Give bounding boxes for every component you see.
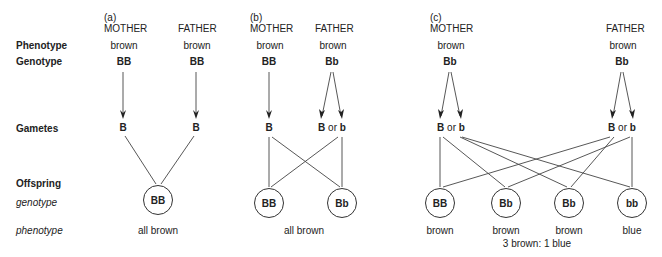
row-label-phenotype: Phenotype bbox=[16, 40, 67, 52]
panel-b-mother-genotype: BB bbox=[262, 56, 276, 68]
row-label-offspring: Offspring bbox=[16, 178, 61, 190]
gamete-allele: B bbox=[437, 122, 444, 133]
panel-a-offspring-1: BB bbox=[143, 185, 173, 215]
gamete-allele: b bbox=[340, 122, 346, 133]
gamete-allele: b bbox=[630, 122, 636, 133]
genetics-inheritance-diagram: Phenotype Genotype Gametes Offspring gen… bbox=[0, 0, 662, 257]
panel-c-mother-genotype: Bb bbox=[443, 56, 456, 68]
row-label-offspring-genotype: genotype bbox=[16, 197, 57, 209]
panel-b-mother-phenotype: brown bbox=[256, 40, 283, 52]
panel-c-offspring-3-phenotype: brown bbox=[555, 225, 582, 237]
panel-c-offspring-2-phenotype: brown bbox=[492, 225, 519, 237]
panel-a-phenotype-summary: all brown bbox=[138, 225, 178, 237]
gamete-allele: b bbox=[459, 122, 465, 133]
row-label-gametes: Gametes bbox=[16, 123, 58, 135]
panel-c-ratio: 3 brown: 1 blue bbox=[503, 238, 571, 250]
panel-b-father-label: FATHER bbox=[315, 23, 354, 35]
panel-c-mother-phenotype: brown bbox=[437, 40, 464, 52]
panel-b-father-genotype: Bb bbox=[325, 56, 338, 68]
panel-c-mother-label: MOTHER bbox=[430, 23, 473, 35]
panel-a-mother-label: MOTHER bbox=[104, 23, 147, 35]
gamete-allele: B bbox=[318, 122, 325, 133]
panel-a-mother-genotype: BB bbox=[117, 56, 131, 68]
panel-b-mother-gamete: B bbox=[265, 122, 272, 134]
panel-b-father-phenotype: brown bbox=[319, 40, 346, 52]
panel-a-father-label: FATHER bbox=[178, 23, 217, 35]
panel-b-mother-label: MOTHER bbox=[250, 23, 293, 35]
panel-c-offspring-4-phenotype: blue bbox=[623, 225, 642, 237]
panel-c-father-label: FATHER bbox=[606, 23, 645, 35]
panel-c-mother-gametes: B or b bbox=[437, 122, 465, 134]
panel-c-offspring-1: BB bbox=[425, 188, 455, 218]
panel-c-offspring-2: Bb bbox=[491, 188, 521, 218]
panel-c-father-phenotype: brown bbox=[609, 40, 636, 52]
panel-a-mother-phenotype: brown bbox=[110, 40, 137, 52]
panel-c-father-gametes: B or b bbox=[608, 122, 636, 134]
panel-b-offspring-1: BB bbox=[254, 188, 284, 218]
gamete-or: or bbox=[447, 122, 456, 133]
panel-c-father-genotype: Bb bbox=[615, 56, 628, 68]
panel-b-offspring-2: Bb bbox=[327, 188, 357, 218]
panel-b-phenotype-summary: all brown bbox=[284, 225, 324, 237]
panel-c-offspring-4: bb bbox=[617, 188, 647, 218]
panel-a-father-gamete: B bbox=[192, 122, 199, 134]
panel-b-father-gametes: B or b bbox=[318, 122, 346, 134]
gamete-or: or bbox=[618, 122, 627, 133]
panel-c-offspring-3: Bb bbox=[554, 188, 584, 218]
panel-a-father-phenotype: brown bbox=[183, 40, 210, 52]
panel-c-offspring-1-phenotype: brown bbox=[426, 225, 453, 237]
gamete-allele: B bbox=[608, 122, 615, 133]
row-label-offspring-phenotype: phenotype bbox=[16, 225, 63, 237]
panel-a-mother-gamete: B bbox=[119, 122, 126, 134]
row-label-genotype: Genotype bbox=[16, 56, 62, 68]
panel-a-father-genotype: BB bbox=[190, 56, 204, 68]
gamete-or: or bbox=[328, 122, 337, 133]
